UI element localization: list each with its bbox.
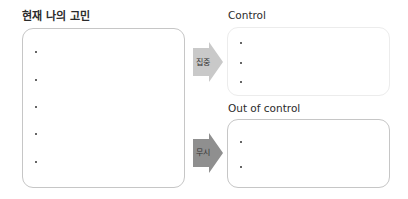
- ignore-arrow-label: 무시: [196, 146, 210, 157]
- current-concerns-title: 현재 나의 고민: [22, 7, 90, 23]
- control-bullet-2: [240, 62, 242, 64]
- out-bullet-2: [240, 166, 242, 168]
- control-title: Control: [228, 9, 266, 21]
- bullet-1: [35, 51, 37, 53]
- bullet-3: [35, 106, 37, 108]
- out-of-control-title: Out of control: [228, 102, 300, 114]
- bullet-2: [35, 79, 37, 81]
- control-box: [227, 27, 390, 96]
- control-bullet-3: [240, 81, 242, 83]
- bullet-4: [35, 133, 37, 135]
- focus-arrow-label: 집중: [196, 56, 210, 67]
- bullet-5: [35, 161, 37, 163]
- control-bullet-1: [240, 42, 242, 44]
- current-concerns-box: [22, 28, 185, 188]
- out-bullet-1: [240, 141, 242, 143]
- out-of-control-box: [227, 119, 390, 188]
